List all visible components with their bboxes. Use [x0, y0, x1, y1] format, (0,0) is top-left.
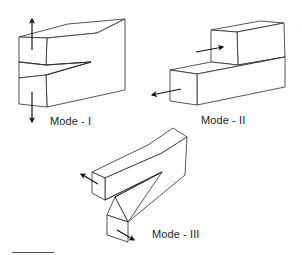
- mode-3-block: [92, 128, 187, 242]
- mode-1-label: Mode - I: [50, 116, 91, 127]
- bottom-rule: [12, 252, 54, 253]
- fracture-modes-diagram: [0, 0, 302, 255]
- mode-2-block: [170, 21, 285, 105]
- speck: [301, 28, 302, 29]
- mode-2-label: Mode - II: [201, 115, 245, 126]
- mode-3-label: Mode - III: [152, 229, 199, 240]
- mode-1-block: [19, 19, 125, 107]
